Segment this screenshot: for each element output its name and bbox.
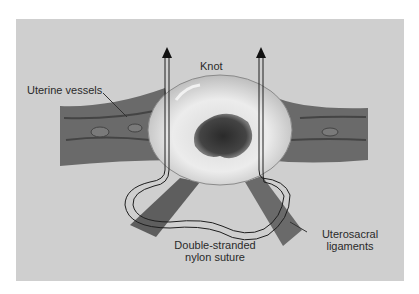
label-ligaments-line1: Uterosacral xyxy=(315,228,385,240)
label-uterine-vessels: Uterine vessels xyxy=(27,84,102,96)
label-ligaments: Uterosacral ligaments xyxy=(315,228,385,252)
label-suture-line1: Double-stranded xyxy=(165,239,265,251)
label-ligaments-line2: ligaments xyxy=(315,240,385,252)
arrow-right-icon xyxy=(256,47,266,58)
label-suture-line2: nylon suture xyxy=(165,251,265,263)
label-suture: Double-stranded nylon suture xyxy=(165,239,265,263)
label-knot: Knot xyxy=(200,60,223,72)
arrow-left-icon xyxy=(162,47,172,58)
